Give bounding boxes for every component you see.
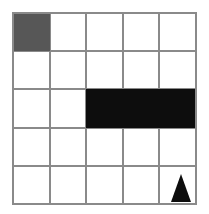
black-bar-overlay <box>86 89 196 127</box>
gray-square-overlay <box>13 13 50 51</box>
figure-canvas <box>0 0 209 214</box>
grid-figure-svg <box>0 0 209 214</box>
